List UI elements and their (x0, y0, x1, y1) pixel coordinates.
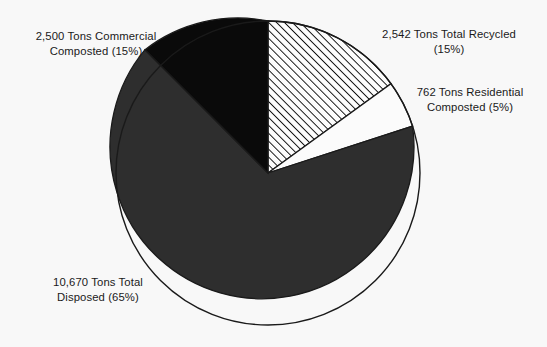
slice-label-commercial-composted: 2,500 Tons Commercial Composted (15%) (8, 29, 184, 58)
slice-label-total-disposed: 10,670 Tons Total Disposed (65%) (12, 275, 184, 304)
slice-label-residential-composted: 762 Tons Residential Composted (5%) (396, 85, 544, 114)
pie-chart: 2,500 Tons Commercial Composted (15%) 2,… (0, 0, 547, 347)
slice-label-total-recycled: 2,542 Tons Total Recycled (15%) (356, 27, 542, 56)
